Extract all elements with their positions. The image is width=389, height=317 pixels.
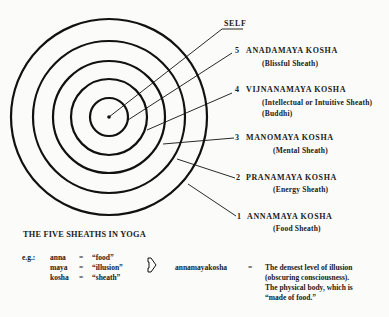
sheath-5-number: 5	[235, 47, 239, 55]
sheath-5-name: ANADAMAYA KOSHA	[246, 47, 338, 55]
example-term: anna	[50, 254, 66, 262]
sheath-4-meaning-buddhi: (Buddhi)	[262, 110, 292, 118]
self-label: SELF	[224, 20, 246, 28]
sheath-4-number: 4	[235, 86, 239, 94]
definition-line: (obscuring consciousness).	[265, 274, 349, 282]
example-gloss: “food”	[92, 254, 114, 262]
sheath-1-name: ANNAMAYA KOSHA	[247, 213, 332, 221]
sheath-2-number: 2	[236, 174, 240, 182]
leader-line-2	[177, 159, 235, 178]
example-equals: =	[79, 254, 83, 262]
definition-line: The physical body, which is	[265, 284, 353, 292]
example-equals: =	[79, 274, 83, 282]
example-gloss: “sheath”	[92, 274, 120, 282]
leader-line-1	[188, 184, 236, 216]
diagram-title: THE FIVE SHEATHS IN YOGA	[23, 231, 146, 239]
example-term: maya	[50, 264, 68, 272]
sheath-4-meaning: (Intellectual or Intuitive Sheath)	[262, 99, 372, 107]
sheath-1-number: 1	[237, 213, 241, 221]
sheath-5-meaning: (Blissful Sheath)	[262, 60, 318, 68]
definition-line: The densest level of illusion	[265, 264, 353, 272]
leader-line-4	[147, 93, 232, 130]
example-equals: =	[79, 264, 83, 272]
sheath-2-meaning: (Energy Sheath)	[273, 186, 328, 194]
sheath-3-name: MANOMAYA KOSHA	[246, 134, 334, 142]
compound-term: annamayakosha	[175, 264, 227, 272]
leader-line-self	[109, 29, 243, 117]
sheath-3-meaning: (Mental Sheath)	[273, 147, 328, 155]
right-arrow-icon	[148, 258, 156, 272]
example-prefix: e.g.:	[22, 254, 35, 262]
definition-line: “made of food.”	[265, 294, 316, 302]
sheath-2-name: PRANAMAYA KOSHA	[246, 174, 337, 182]
sheath-3-number: 3	[235, 134, 239, 142]
compound-equals: =	[248, 264, 252, 272]
example-term: kosha	[50, 274, 69, 282]
sheath-1-meaning: (Food Sheath)	[273, 225, 321, 233]
example-gloss: “illusion”	[92, 264, 123, 272]
sheath-4-name: VIJNANAMAYA KOSHA	[246, 86, 346, 94]
leader-line-5	[128, 53, 232, 120]
leader-line-3	[163, 138, 234, 144]
